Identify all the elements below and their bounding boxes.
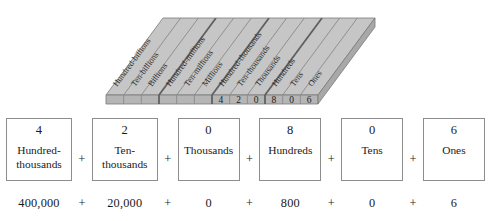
place-box-ten-thousands: 2 Ten-thousands (92, 118, 158, 181)
place-value-chart-figure: Hundred-billions Ten-billions Billions H… (0, 0, 491, 112)
place-box-digit: 0 (205, 123, 211, 138)
plus-sign: + (405, 196, 422, 211)
slab-cell-digit: 2 (236, 95, 241, 105)
plus-sign: + (159, 196, 176, 211)
plus-sign: + (241, 196, 258, 211)
slab-cell-digit: 8 (271, 95, 276, 105)
place-value-ones: 6 (423, 196, 485, 211)
place-box-digit: 8 (287, 123, 293, 138)
slab-cell-digit: 4 (218, 95, 223, 105)
plus-sign: + (404, 152, 421, 167)
slab-cell-digit: 0 (254, 95, 259, 105)
place-box-hundreds: 8 Hundreds (259, 118, 321, 181)
place-box-label: Thousands (182, 144, 235, 158)
place-box-thousands: 0 Thousands (178, 118, 240, 181)
place-value-thousands: 0 (178, 196, 240, 211)
place-box-label: Hundreds (266, 144, 314, 158)
place-box-label: Ten-thousands (93, 144, 157, 171)
plus-sign: + (241, 152, 258, 167)
place-value-ten-thousands: 20,000 (92, 196, 158, 211)
slab-cell-digit: 6 (307, 95, 312, 105)
place-value-tens: 0 (341, 196, 403, 211)
place-box-tens: 0 Tens (341, 118, 403, 181)
place-box-label: Tens (359, 144, 384, 158)
place-box-label: Ones (440, 144, 467, 158)
plus-sign: + (73, 152, 90, 167)
place-box-hundred-thousands: 4 Hundred-thousands (6, 118, 72, 181)
expanded-form-values: 400,000 + 20,000 + 0 + 800 + 0 + 6 (0, 192, 491, 214)
place-box-digit: 6 (451, 123, 457, 138)
plus-sign: + (323, 196, 340, 211)
slab-cell-digit: 0 (289, 95, 294, 105)
place-box-digit: 2 (122, 123, 128, 138)
place-box-digit: 4 (36, 123, 42, 138)
expanded-form-boxes: 4 Hundred-thousands + 2 Ten-thousands + … (0, 118, 491, 196)
place-value-hundred-thousands: 400,000 (6, 196, 72, 211)
place-value-hundreds: 800 (259, 196, 321, 211)
place-value-chart-svg: Hundred-billions Ten-billions Billions H… (0, 0, 491, 112)
plus-sign: + (159, 152, 176, 167)
plus-sign: + (323, 152, 340, 167)
place-box-digit: 0 (369, 123, 375, 138)
plus-sign: + (73, 196, 90, 211)
place-box-label: Hundred-thousands (7, 144, 71, 171)
place-box-ones: 6 Ones (423, 118, 485, 181)
